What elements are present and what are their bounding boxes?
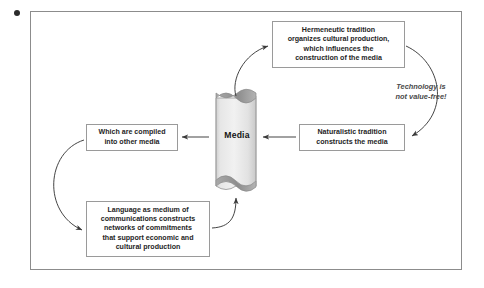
node-hermeneutic-tradition[interactable]: Hermeneutic tradition organizes cultural…	[272, 21, 405, 68]
media-label: Media	[206, 130, 268, 140]
decorative-dot	[14, 10, 20, 16]
node-naturalistic-tradition[interactable]: Naturalistic tradition constructs the me…	[299, 124, 405, 151]
node-which-are-compiled[interactable]: Which are compiled into other media	[86, 124, 178, 151]
annotation-technology-not-value-free: Technology is not value-free!	[378, 82, 464, 101]
node-language-as-medium[interactable]: Language as medium of communications con…	[86, 201, 210, 257]
diagram-canvas: Media Hermeneutic tradition organizes cu…	[0, 0, 484, 288]
